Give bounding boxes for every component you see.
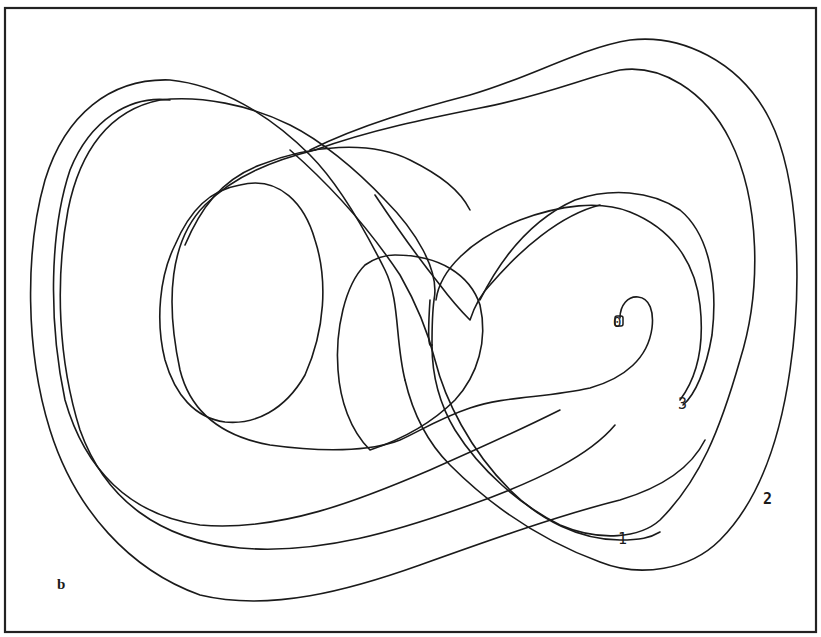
trajectory-plot [0, 0, 821, 637]
panel-label: b [57, 577, 65, 592]
label-pass-2: 2 [763, 492, 772, 507]
trajectory-curve [31, 39, 797, 601]
diagram-frame: 0 1 2 3 b [0, 0, 821, 637]
label-pass-1: 1 [618, 532, 627, 547]
label-start-0: 0 [613, 315, 621, 329]
label-pass-3: 3 [678, 397, 687, 412]
plot-border [5, 8, 816, 632]
